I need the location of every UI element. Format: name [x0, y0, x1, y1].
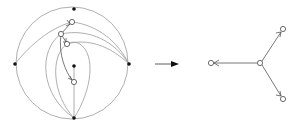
vertex-v2: [58, 31, 63, 36]
curve-right-to-v1: [72, 22, 129, 64]
vertex-upper-right: [280, 26, 285, 31]
transition-arrow: [155, 61, 179, 67]
vertex-v3: [64, 41, 69, 46]
vertex-v4: [71, 79, 76, 84]
marked-point-interior: [72, 64, 76, 68]
vertex-lower-right: [280, 96, 285, 101]
left-diagram: [13, 7, 131, 120]
diagram-canvas: [0, 0, 303, 123]
marked-point-bottom: [72, 116, 76, 120]
arrow-head-icon: [171, 61, 179, 67]
marked-point-right: [127, 62, 131, 66]
curve-right-to-v3: [67, 42, 129, 64]
curve-left-to-v1: [15, 22, 72, 64]
right-diagram: [208, 26, 285, 101]
arrowhead-v4: [68, 76, 72, 80]
edge-center-to-upper-right: [262, 32, 281, 61]
marked-point-top: [72, 7, 76, 11]
marked-point-left: [13, 62, 17, 66]
vertex-v1: [69, 19, 74, 24]
vertex-left: [208, 60, 213, 65]
vertex-center: [257, 60, 262, 65]
edge-center-to-lower-right: [262, 65, 281, 96]
loop-inner-right: [67, 42, 90, 118]
